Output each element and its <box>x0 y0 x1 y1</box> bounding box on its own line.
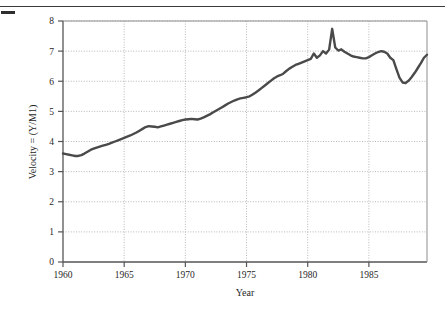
y-axis-tick-label: 5 <box>49 107 54 117</box>
x-axis-title: Year <box>236 287 255 298</box>
y-axis-tick-label: 7 <box>49 47 54 57</box>
y-axis-tick-label: 3 <box>49 167 54 177</box>
x-axis-tick-label: 1980 <box>298 270 317 280</box>
figure-page: 012345678196019651970197519801985 Year V… <box>0 0 445 311</box>
series-line-velocity <box>63 29 427 156</box>
axis-tick-labels: 012345678196019651970197519801985 <box>49 16 378 280</box>
y-axis-title: Velocity = (Y/M1) <box>27 105 39 180</box>
x-axis-tick-label: 1970 <box>176 270 195 280</box>
x-axis-tick-label: 1985 <box>359 270 378 280</box>
velocity-line-chart: 012345678196019651970197519801985 Year V… <box>0 0 445 311</box>
y-axis-tick-label: 2 <box>49 197 54 207</box>
y-axis-tick-label: 4 <box>49 137 54 147</box>
y-axis-tick-label: 0 <box>49 257 54 267</box>
chart-svg: 012345678196019651970197519801985 Year V… <box>0 0 445 311</box>
y-axis-tick-label: 1 <box>49 227 54 237</box>
data-series-line <box>63 29 427 156</box>
x-axis-tick-label: 1965 <box>115 270 134 280</box>
x-axis-tick-label: 1975 <box>237 270 256 280</box>
y-axis-tick-label: 6 <box>49 77 54 87</box>
x-axis-tick-label: 1960 <box>54 270 73 280</box>
y-axis-tick-label: 8 <box>49 16 54 26</box>
